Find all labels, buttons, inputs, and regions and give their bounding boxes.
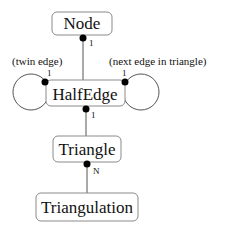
cardinality-halfedge-triangle: 1 [91,110,96,120]
node-association-dot [80,35,87,42]
halfedge-class-label: HalfEdge [52,85,117,104]
next-association-dot [122,79,129,86]
cardinality-next: 1 [122,68,127,78]
cardinality-node: 1 [89,38,94,48]
triangulation-class-label: Triangulation [41,198,133,217]
halfedge-triangle-dot [83,106,90,113]
class-diagram: Node HalfEdge Triangle Triangulation 1 1… [0,0,228,231]
triangle-class-label: Triangle [59,140,116,159]
triangulation-class-box: Triangulation [36,193,138,221]
node-class-label: Node [64,14,101,33]
cardinality-triangle-triangulation: N [93,166,100,176]
next-edge-loop [123,74,159,110]
cardinality-twin: 1 [47,68,52,78]
triangle-class-box: Triangle [53,136,121,162]
triangle-triangulation-dot [84,161,91,168]
halfedge-class-box: HalfEdge [46,80,125,106]
next-edge-annotation: (next edge in triangle) [109,55,207,68]
twin-association-dot [42,79,49,86]
node-class-box: Node [52,12,112,35]
twin-edge-annotation: (twin edge) [12,55,63,68]
